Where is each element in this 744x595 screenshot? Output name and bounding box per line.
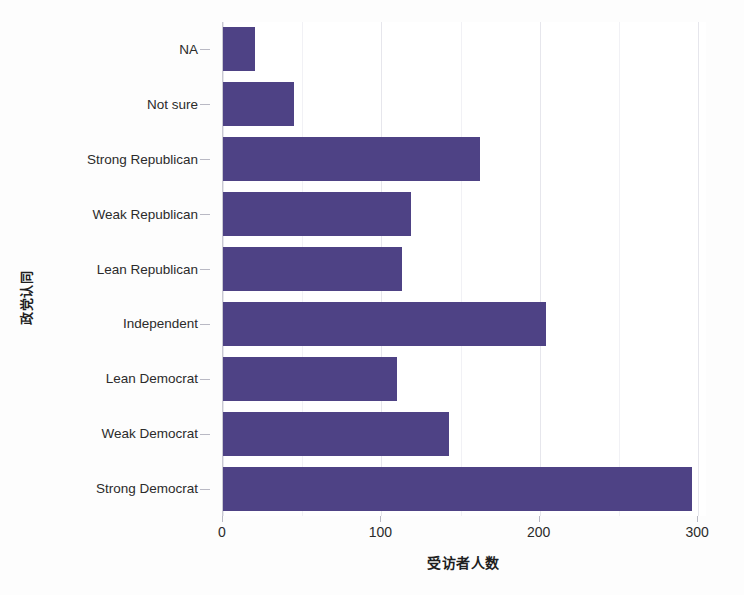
bar <box>223 82 294 126</box>
y-axis-tick-mark <box>200 159 210 160</box>
plot-panel <box>222 22 706 516</box>
x-axis-tick-mark <box>380 516 381 522</box>
x-axis-tick-mark <box>697 516 698 522</box>
x-axis-tick-label: 200 <box>527 524 550 540</box>
y-axis-tick-labels: NANot sureStrong RepublicanWeak Republic… <box>38 22 210 516</box>
bar-series <box>223 22 706 516</box>
bar <box>223 192 411 236</box>
bar <box>223 247 402 291</box>
y-axis-title: 政党认同 <box>10 0 40 595</box>
bar <box>223 357 397 401</box>
y-axis-tick-mark <box>200 489 210 490</box>
bar <box>223 412 449 456</box>
y-axis-tick-mark <box>200 269 210 270</box>
x-axis-tick-label: 100 <box>369 524 392 540</box>
y-axis-tick-mark <box>200 49 210 50</box>
bar <box>223 27 255 71</box>
y-axis-tick-mark <box>200 324 210 325</box>
x-axis: 0100200300 <box>222 516 705 546</box>
y-axis-tick-mark <box>200 434 210 435</box>
y-axis-tick-mark <box>200 379 210 380</box>
bar <box>223 302 546 346</box>
y-axis-tick-mark <box>200 214 210 215</box>
x-axis-title: 受访者人数 <box>222 552 705 572</box>
x-axis-tick-mark <box>539 516 540 522</box>
y-axis-tick-mark <box>200 104 210 105</box>
x-axis-tick-label: 300 <box>685 524 708 540</box>
x-axis-tick-label: 0 <box>218 524 226 540</box>
bar <box>223 467 692 511</box>
bar-chart-figure: 政党认同 NANot sureStrong RepublicanWeak Rep… <box>0 0 744 595</box>
y-axis-title-text: 政党认同 <box>16 271 35 325</box>
x-axis-tick-mark <box>222 516 223 522</box>
bar <box>223 137 480 181</box>
